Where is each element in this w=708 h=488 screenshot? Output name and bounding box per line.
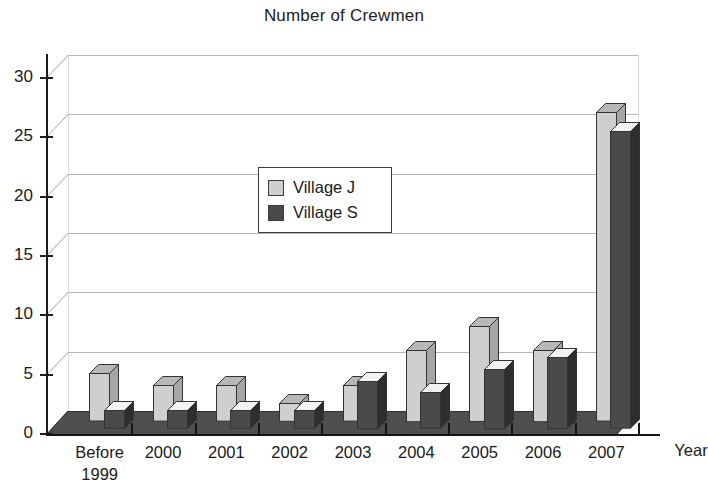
x-axis-baseline — [46, 434, 660, 436]
gridline-connector-5 — [46, 352, 69, 376]
x-axis-label-8: 2007 — [588, 441, 625, 463]
bar-village-s-0 — [104, 401, 133, 428]
legend-label-village-s: Village S — [293, 203, 358, 222]
x-axis-label-5: 2004 — [398, 441, 435, 463]
gridline-connector-10 — [46, 292, 69, 316]
bar-village-s-2 — [230, 401, 259, 428]
x-axis-label-3: 2002 — [271, 441, 308, 463]
y-tick-label-25: 25 — [14, 126, 33, 146]
x-axis-label-4: 2003 — [335, 441, 372, 463]
legend-swatch-village-j — [268, 180, 284, 196]
gridline-25 — [68, 114, 638, 115]
legend-item-village-s: Village S — [268, 203, 381, 222]
y-tick-5: 5 — [40, 374, 53, 376]
gridline-15 — [68, 233, 638, 234]
y-tick-10: 10 — [40, 314, 53, 316]
y-tick-15: 15 — [40, 255, 53, 257]
bar-village-s-8 — [610, 122, 639, 428]
y-tick-label-5: 5 — [24, 363, 33, 383]
x-axis-label-7: 2006 — [525, 441, 562, 463]
x-axis-label-line1: 2007 — [588, 441, 625, 463]
x-axis-label-1: 2000 — [145, 441, 182, 463]
bar-village-s-3 — [294, 401, 323, 428]
x-axis-label-0: Before1999 — [75, 441, 124, 485]
bar-village-s-6 — [484, 360, 513, 428]
x-axis-label-line1: 2006 — [525, 441, 562, 463]
chart-legend: Village J Village S — [258, 167, 392, 233]
y-axis-line — [46, 54, 48, 436]
y-tick-label-0: 0 — [24, 423, 33, 443]
gridline-10 — [68, 292, 638, 293]
y-tick-label-10: 10 — [14, 304, 33, 324]
bar-village-s-4 — [357, 372, 386, 428]
gridline-connector-20 — [46, 174, 69, 198]
x-axis-label-2: 2001 — [208, 441, 245, 463]
x-axis-label-6: 2005 — [461, 441, 498, 463]
x-axis-label-line1: 2001 — [208, 441, 245, 463]
legend-item-village-j: Village J — [268, 178, 381, 197]
y-tick-label-20: 20 — [14, 185, 33, 205]
x-axis-label-line2: 1999 — [75, 463, 124, 485]
bar-village-s-5 — [420, 383, 449, 428]
y-tick-20: 20 — [40, 196, 53, 198]
y-tick-label-15: 15 — [14, 245, 33, 265]
y-tick-label-30: 30 — [14, 67, 33, 87]
x-axis-title: Year — [674, 441, 707, 460]
chart-title: Number of Crewmen — [0, 6, 688, 26]
x-axis-label-line1: 2000 — [145, 441, 182, 463]
legend-swatch-village-s — [268, 205, 284, 221]
gridline-connector-15 — [46, 233, 69, 257]
x-axis-label-line1: Before — [75, 441, 124, 463]
gridline-connector-30 — [46, 55, 69, 79]
x-axis-label-line1: 2003 — [335, 441, 372, 463]
x-axis-label-line1: 2004 — [398, 441, 435, 463]
bar-village-s-1 — [167, 401, 196, 428]
y-tick-25: 25 — [40, 136, 53, 138]
y-tick-30: 30 — [40, 77, 53, 79]
gridline-connector-25 — [46, 114, 69, 138]
legend-label-village-j: Village J — [293, 178, 355, 197]
bar-village-s-7 — [547, 348, 576, 428]
x-axis-label-line1: 2002 — [271, 441, 308, 463]
x-axis-label-line1: 2005 — [461, 441, 498, 463]
plot-area: 051015202530 Before199920002001200220032… — [46, 55, 660, 435]
gridline-30 — [68, 55, 638, 56]
